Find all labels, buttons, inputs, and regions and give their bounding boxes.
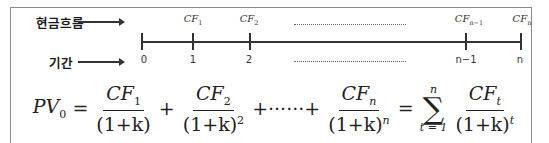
- timeline-axis: [141, 41, 520, 43]
- formula-equals: =: [72, 97, 88, 119]
- period-arrow-icon: [78, 61, 120, 63]
- cash-flow-ellipsis: [294, 24, 406, 25]
- formula-term-t: CFt (1+k)t: [455, 82, 514, 135]
- timeline-tick-0: [141, 33, 143, 50]
- formula-plus: +: [159, 97, 175, 119]
- period-label: 기간: [49, 53, 73, 72]
- period-n: n: [517, 54, 523, 65]
- formula-ellipsis: +······+: [252, 97, 320, 119]
- period-n-1: n−1: [455, 54, 476, 65]
- present-value-formula: PV0 = CF1 (1+k) + CF2 (1+k)2 +······+ CF…: [0, 82, 549, 135]
- timeline-tick-2: [249, 33, 251, 50]
- cf-label-2: CF2: [240, 13, 259, 27]
- cf-label-1: CF1: [184, 13, 203, 27]
- formula-term-1: CF1 (1+k): [96, 82, 150, 135]
- formula-equals-2: =: [398, 97, 414, 119]
- cf-label-n-1: CFn−1: [455, 13, 483, 27]
- period-2: 2: [246, 54, 252, 65]
- formula-term-n: CFn (1+k)n: [328, 82, 389, 135]
- timeline-tick-1: [192, 33, 194, 50]
- cash-flow-label: 현금흐름: [36, 13, 84, 32]
- period-0: 0: [141, 54, 147, 65]
- cash-flow-arrow-icon: [78, 21, 120, 23]
- timeline-tick-n-1: [465, 33, 467, 50]
- formula-lhs: PV0: [33, 95, 67, 121]
- period-1: 1: [190, 54, 196, 65]
- formula-term-2: CF2 (1+k)2: [183, 82, 244, 135]
- period-ellipsis: [294, 61, 406, 62]
- timeline-tick-n: [520, 33, 522, 50]
- cf-label-n: CFn: [513, 13, 532, 27]
- summation-icon: n ∑ t = 1: [420, 84, 448, 133]
